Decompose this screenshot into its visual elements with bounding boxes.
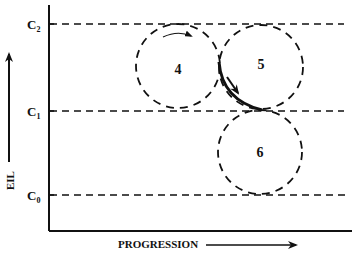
y-axis-label: EIL — [4, 171, 16, 190]
circle-label-6: 6 — [257, 145, 264, 160]
level-label-c2: C2 — [27, 17, 40, 34]
eil-progression-diagram: C2 C1 C0 EIL 4 5 6 PROGRESSION — [0, 0, 354, 268]
rotation-arrow-icon — [163, 33, 191, 37]
level-label-c1: C1 — [27, 104, 40, 121]
circle-label-4: 4 — [175, 62, 182, 77]
x-axis-label: PROGRESSION — [118, 238, 198, 250]
circle-label-5: 5 — [258, 57, 265, 72]
level-label-c0: C0 — [27, 188, 40, 205]
